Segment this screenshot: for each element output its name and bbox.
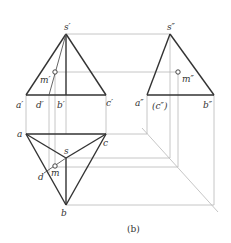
label-s-side: s″ [167, 22, 176, 32]
label-c-front: c′ [106, 98, 113, 108]
point-m-front [53, 70, 57, 74]
label-m-front: m′ [40, 75, 51, 85]
label-a-top: a [17, 129, 22, 139]
label-d-front: d′ [36, 100, 44, 110]
label-m-top: m [51, 168, 60, 178]
side-view [147, 34, 214, 95]
figure-caption: (b) [127, 224, 140, 234]
label-a-side: a″ [135, 98, 144, 108]
label-c-side: (c″) [152, 101, 168, 111]
top-view [26, 134, 106, 205]
label-d-top: d [38, 172, 44, 182]
point-m-side [176, 70, 180, 74]
miter-line [142, 128, 218, 212]
label-b-front: b′ [57, 100, 65, 110]
label-a-front: a′ [16, 100, 23, 110]
label-s-front: s′ [64, 22, 71, 32]
label-c-top: c [103, 138, 108, 148]
projection-diagram: s′ a′ d′ b′ c′ m′ s″ a″ (c″) b″ m″ a c s… [0, 0, 231, 243]
label-b-side: b″ [203, 100, 213, 110]
label-s-top: s [64, 146, 69, 156]
label-m-side: m″ [182, 74, 195, 84]
label-b-top: b [61, 208, 67, 218]
front-view [26, 34, 106, 95]
